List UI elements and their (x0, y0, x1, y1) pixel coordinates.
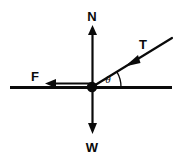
angle-arc (117, 72, 121, 87)
weight-arrowhead (88, 123, 97, 134)
force-diagram-canvas: N W F T θ (0, 0, 186, 162)
tension-force-label: T (139, 37, 147, 52)
weight-force-label: W (86, 140, 99, 155)
tension-arrowhead (125, 55, 141, 67)
friction-force-label: F (31, 69, 39, 84)
normal-force-label: N (87, 9, 96, 24)
origin-point-dot (87, 82, 97, 92)
normal-arrowhead (88, 25, 97, 35)
theta-angle-label: θ (105, 73, 111, 85)
free-body-diagram: N W F T θ (0, 0, 186, 162)
